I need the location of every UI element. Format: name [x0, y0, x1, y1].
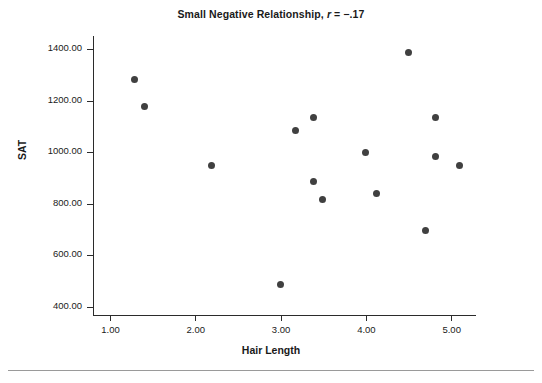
x-axis-label: Hair Length: [0, 344, 542, 356]
plot-area: [93, 36, 476, 315]
data-point: [292, 127, 299, 134]
x-tick-mark: [451, 315, 452, 321]
data-point: [141, 103, 148, 110]
x-tick-mark: [195, 315, 196, 321]
x-tick-mark: [281, 315, 282, 321]
data-point: [310, 178, 317, 185]
x-axis-line: [93, 315, 476, 316]
chart-title-stat-value: = −.17: [331, 8, 364, 20]
x-tick: 1.00: [110, 315, 111, 321]
y-tick-label: 800.00: [53, 197, 82, 208]
data-point: [422, 227, 429, 234]
scatter-plot-figure: Small Negative Relationship, r = −.17 40…: [0, 0, 542, 383]
x-tick: 4.00: [366, 315, 367, 321]
data-point: [432, 114, 439, 121]
y-tick-label: 600.00: [53, 248, 82, 259]
y-tick-label: 400.00: [53, 300, 82, 311]
y-tick-label: 1400.00: [48, 42, 82, 53]
x-tick-mark: [366, 315, 367, 321]
chart-title: Small Negative Relationship, r = −.17: [0, 8, 542, 20]
x-tick-label: 5.00: [442, 324, 461, 335]
y-axis-label: SAT: [16, 140, 28, 160]
x-tick-mark: [110, 315, 111, 321]
chart-title-prefix: Small Negative Relationship,: [178, 8, 327, 20]
data-point: [310, 114, 317, 121]
x-tick-label: 4.00: [357, 324, 376, 335]
y-tick-label: 1000.00: [48, 145, 82, 156]
x-tick: 5.00: [451, 315, 452, 321]
data-point: [319, 196, 326, 203]
x-tick: 2.00: [195, 315, 196, 321]
data-point: [432, 153, 439, 160]
y-tick-label: 1200.00: [48, 94, 82, 105]
x-tick-label: 1.00: [101, 324, 120, 335]
x-tick: 3.00: [281, 315, 282, 321]
x-tick-label: 2.00: [187, 324, 206, 335]
footer-divider: [8, 370, 534, 371]
x-tick-label: 3.00: [272, 324, 291, 335]
